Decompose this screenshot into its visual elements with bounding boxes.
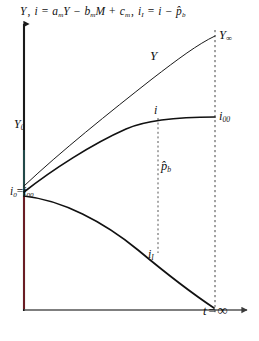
label-i-asymptote: i00 [219,110,230,123]
eq-equals2: = [147,5,156,17]
eq-minus1: − [73,5,82,17]
curve-Y [24,36,215,186]
label-Y-infinity-base: Y [219,28,226,42]
label-i00-sub: 00 [26,191,33,199]
curve-iI [24,196,214,308]
eq-minus2: − [165,5,174,17]
label-Y-infinity-sub: ∞ [226,33,232,43]
diagram-canvas [0,0,259,341]
eq-Y: Y [20,5,27,17]
label-Y-curve-base: Y [150,48,157,63]
label-i-I-sub: I [151,253,153,262]
economic-diagram-figure: Y, i = amY − bmM + cm, iI = i − p̂b Y0 i… [0,0,259,341]
label-Y-infinity: Y∞ [219,29,232,42]
label-t-equals: = [206,304,217,318]
eq-i3: i [158,5,161,17]
label-p-hat-b: p̂b [161,160,171,173]
curve-i [24,117,215,192]
eq-Y2: Y [63,5,70,17]
label-i-initial-equals-i-asymptote: i0=i00 [10,186,34,199]
eq-comma1: , [27,5,32,17]
eq-M: M [95,5,105,17]
label-Y-curve: Y [150,49,157,62]
label-t-equals-infinity: t=∞ [203,303,228,317]
eq-equals1: = [41,5,50,17]
eq-phat-sub: b [182,11,186,19]
label-i-point: i [154,104,157,116]
label-p-hat-sub: b [167,165,171,174]
label-i-point-base: i [154,103,157,117]
eq-iI-sub: I [141,11,143,19]
label-t-infinity-glyph: ∞ [218,302,228,318]
eq-i: i [34,5,37,17]
axis-equation-label: Y, i = amY − bmM + cm, iI = i − p̂b [20,6,186,19]
label-i-asymptote-sub: 00 [222,115,230,124]
label-i-I-curve: iI [148,248,154,261]
eq-plus: + [108,5,117,17]
label-Y-initial-base: Y [14,117,21,131]
label-Y-initial-sub: 0 [21,123,25,132]
label-Y-initial: Y0 [14,118,24,131]
eq-comma2: , [130,5,135,17]
